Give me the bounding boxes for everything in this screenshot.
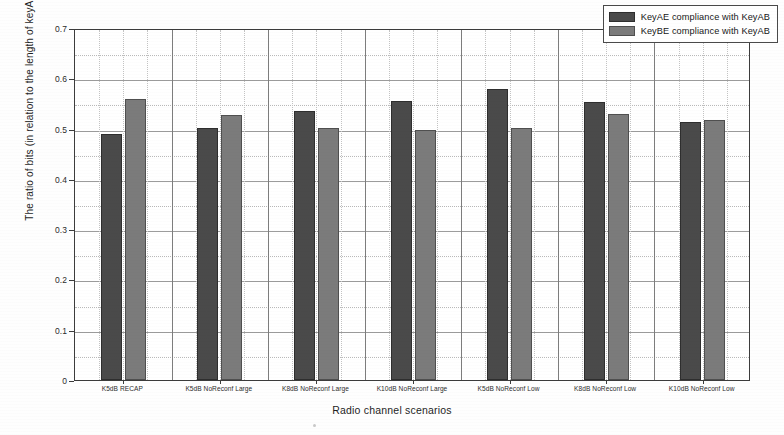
x-tick-mark <box>316 380 317 384</box>
bar-keybe <box>318 128 339 380</box>
x-tick-label: K8dB NoReconf Large <box>282 385 349 392</box>
bar-keybe <box>511 128 532 380</box>
x-tick-label: K5dB NoReconf Low <box>478 385 540 392</box>
legend[interactable]: KeyAE compliance with KeyAB KeyBE compli… <box>603 5 778 43</box>
y-tick-label: 0.7 <box>27 24 67 34</box>
bar-keyae <box>584 102 605 380</box>
y-tick-label: 0.1 <box>27 326 67 336</box>
x-tick-mark <box>606 380 607 384</box>
legend-item-keyae[interactable]: KeyAE compliance with KeyAB <box>609 10 770 24</box>
bar-keyae <box>391 101 412 380</box>
bar-keybe <box>125 99 146 380</box>
y-tick-label: 0.5 <box>27 125 67 135</box>
x-tick-label: K8dB NoReconf Low <box>574 385 636 392</box>
legend-swatch-icon-keybe <box>609 26 635 36</box>
x-tick-mark <box>703 380 704 384</box>
y-tick-label: 0.2 <box>27 275 67 285</box>
x-tick-mark <box>220 380 221 384</box>
plot-area <box>74 29 750 381</box>
x-tick-mark <box>510 380 511 384</box>
bar-keyae <box>680 122 701 380</box>
legend-item-keybe[interactable]: KeyBE compliance with KeyAB <box>609 24 770 38</box>
y-tick-mark <box>69 381 74 382</box>
bar-keyae <box>294 111 315 380</box>
x-axis-title: Radio channel scenarios <box>0 404 784 416</box>
bars-layer <box>75 30 749 380</box>
y-tick-label: 0.3 <box>27 225 67 235</box>
y-tick-label: 0.4 <box>27 175 67 185</box>
bar-keyae <box>197 128 218 380</box>
y-tick-label: 0 <box>27 376 67 386</box>
legend-label-keyae: KeyAE compliance with KeyAB <box>641 12 770 22</box>
x-tick-label: K10dB NoReconf Large <box>377 385 448 392</box>
x-tick-mark <box>413 380 414 384</box>
x-tick-label: K5dB NoReconf Large <box>185 385 252 392</box>
scan-speck <box>313 424 316 427</box>
figure-canvas: The ratio of bits (in relation to the le… <box>0 0 784 435</box>
x-tick-label: K5dB RECAP <box>102 385 143 392</box>
bar-keybe <box>608 114 629 381</box>
bar-keybe <box>415 130 436 380</box>
legend-swatch-icon-keyae <box>609 12 635 22</box>
legend-label-keybe: KeyBE compliance with KeyAB <box>641 26 770 36</box>
bar-keyae <box>101 134 122 380</box>
bar-keyae <box>487 89 508 380</box>
x-tick-mark <box>123 380 124 384</box>
bar-keybe <box>221 115 242 380</box>
bar-keybe <box>704 120 725 380</box>
x-tick-label: K10dB NoReconf Low <box>669 385 735 392</box>
y-tick-label: 0.6 <box>27 74 67 84</box>
